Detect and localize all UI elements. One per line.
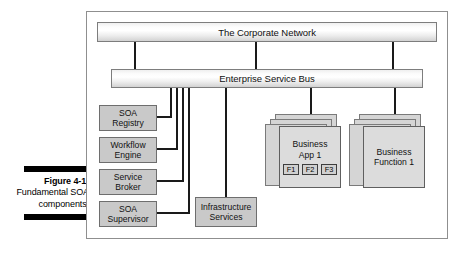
component-box-service-broker: Service Broker	[99, 169, 157, 195]
function-chip-row: F1 F2 F3	[283, 164, 337, 175]
workflow-engine-label-line2: Engine	[115, 150, 142, 160]
connector-network-to-bus-center	[255, 42, 257, 69]
connector-network-to-bus-right	[392, 42, 394, 69]
infrastructure-services-label-line2: Services	[210, 212, 243, 222]
figure-caption-block: Figure 4-1: Fundamental SOA components.	[14, 166, 90, 220]
business-function-1-label-line2: Function 1	[374, 157, 414, 167]
connector-bus-to-service-broker-vertical	[182, 88, 184, 182]
business-app-1-label-line2: App 1	[299, 150, 321, 160]
soa-supervisor-label-line2: Supervisor	[107, 214, 148, 224]
connector-bus-to-infrastructure-services	[225, 88, 227, 198]
connector-network-to-bus-left	[134, 42, 136, 69]
connector-bus-to-soa-supervisor-horizontal	[156, 212, 190, 214]
connector-bus-to-service-broker-horizontal	[156, 180, 184, 182]
card-business-function-1: Business Function 1	[363, 126, 425, 188]
diagram-frame: The Corporate Network Enterprise Service…	[86, 11, 448, 239]
service-broker-label-line2: Broker	[115, 182, 140, 192]
business-app-1-label-line1: Business	[293, 139, 328, 149]
component-box-infrastructure-services: Infrastructure Services	[195, 197, 257, 227]
function-chip-f2: F2	[302, 164, 318, 175]
caption-rule-bottom	[24, 214, 90, 220]
card-stack-business-app-1: Business App 1 F1 F2 F3	[265, 124, 341, 200]
figure-caption-text: Figure 4-1: Fundamental SOA components.	[14, 172, 90, 214]
card-stack-business-function-1: Business Function 1	[349, 124, 425, 200]
component-box-soa-registry: SOA Registry	[99, 105, 157, 131]
workflow-engine-label-line1: Workflow	[110, 140, 145, 150]
connector-bus-to-soa-registry-horizontal	[156, 116, 172, 118]
figure-number-label: Figure 4-1:	[14, 176, 89, 187]
soa-supervisor-label-line1: SOA	[119, 204, 137, 214]
connector-bus-to-workflow-engine-horizontal	[156, 148, 178, 150]
soa-registry-label-line2: Registry	[112, 118, 144, 128]
component-box-soa-supervisor: SOA Supervisor	[99, 201, 157, 227]
card-business-app-1: Business App 1 F1 F2 F3	[279, 126, 341, 188]
service-broker-label-line1: Service	[114, 172, 143, 182]
corporate-network-bar: The Corporate Network	[97, 22, 437, 42]
enterprise-service-bus-bar: Enterprise Service Bus	[111, 69, 423, 88]
function-chip-f1: F1	[283, 164, 299, 175]
corporate-network-label: The Corporate Network	[218, 27, 316, 38]
connector-bus-to-workflow-engine-vertical	[176, 88, 178, 150]
connector-bus-to-soa-registry-vertical	[170, 88, 172, 118]
infrastructure-services-label-line1: Infrastructure	[201, 202, 252, 212]
component-box-workflow-engine: Workflow Engine	[99, 137, 157, 163]
enterprise-service-bus-label: Enterprise Service Bus	[219, 73, 315, 84]
soa-registry-label-line1: SOA	[119, 108, 137, 118]
figure-caption-body: Fundamental SOA components.	[14, 187, 89, 210]
business-function-1-label-line1: Business	[377, 147, 412, 157]
connector-bus-to-soa-supervisor-vertical	[188, 88, 190, 214]
function-chip-f3: F3	[321, 164, 337, 175]
